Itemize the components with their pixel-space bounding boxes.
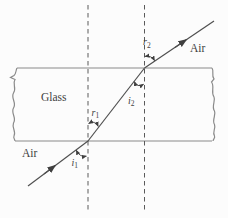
- angle-label-i1: i1: [72, 157, 79, 171]
- glass-right-torn-edge: [212, 68, 215, 141]
- air-label-bottom: Air: [22, 147, 38, 159]
- angle-arc-r2: [145, 56, 155, 61]
- refraction-diagram: Air Air Glass i1 r1 i2 r2: [0, 0, 228, 218]
- incident-ray-arrowhead: [44, 166, 55, 174]
- emergent-ray-arrowhead: [175, 40, 186, 48]
- light-ray: [28, 21, 214, 186]
- glass-slab: [11, 68, 215, 141]
- refracted-ray-in-glass: [88, 68, 145, 141]
- angle-label-r1: r1: [92, 107, 100, 121]
- air-label-top: Air: [190, 42, 206, 54]
- angle-arc-i1: [76, 150, 86, 156]
- angle-arc-r1: [89, 122, 99, 126]
- angle-label-i2: i2: [128, 95, 135, 109]
- normals: [88, 5, 145, 210]
- angle-arc-i2: [134, 82, 143, 86]
- glass-label: Glass: [41, 91, 67, 103]
- glass-left-torn-edge: [11, 68, 18, 141]
